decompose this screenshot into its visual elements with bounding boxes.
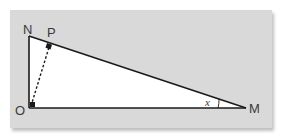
angle-label-x: x [204,96,210,108]
triangle-diagram: N P O M x [0,0,283,139]
vertex-label-O: O [15,103,25,118]
vertex-label-P: P [47,25,56,40]
right-angle-marker-O [30,102,35,107]
vertex-label-N: N [23,22,32,37]
vertex-label-M: M [249,101,260,116]
